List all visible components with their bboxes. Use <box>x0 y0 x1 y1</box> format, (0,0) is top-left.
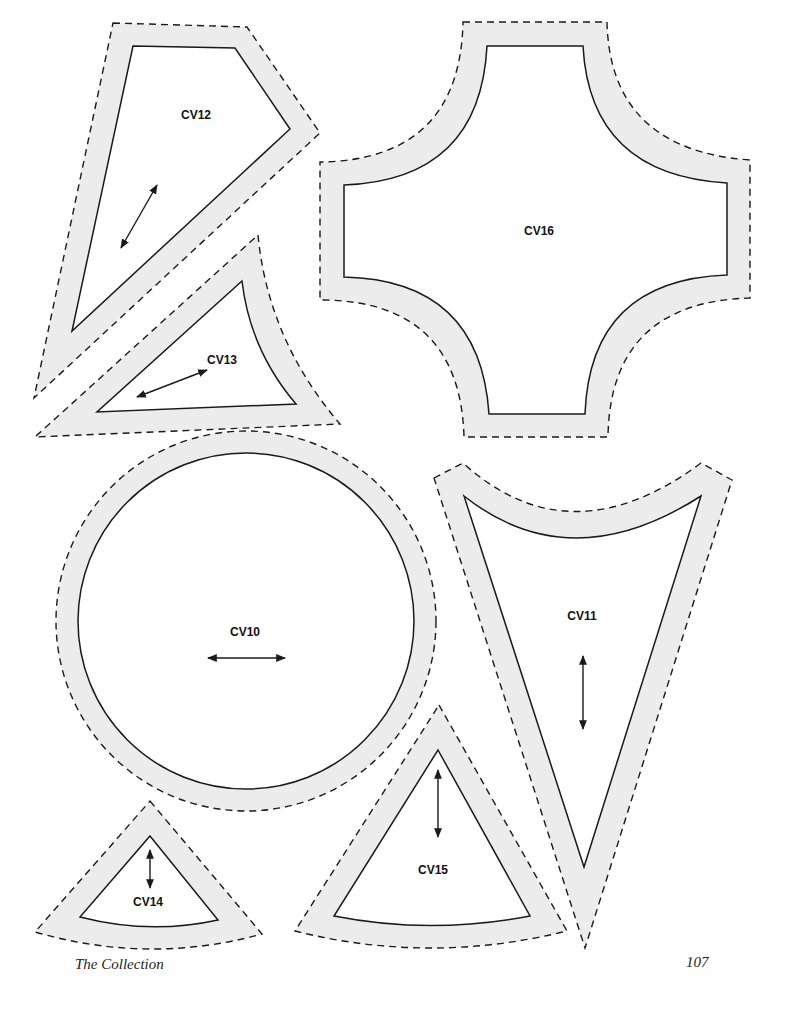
template-label-cv12: CV12 <box>181 108 211 122</box>
footer-book-title: The Collection <box>75 956 164 973</box>
template-label-cv13: CV13 <box>207 353 237 367</box>
template-label-cv16: CV16 <box>524 224 554 238</box>
template-artwork <box>0 0 792 1018</box>
pattern-page: CV12 CV13 CV16 CV10 CV11 CV14 CV15 The C… <box>0 0 792 1018</box>
template-label-cv15: CV15 <box>418 863 448 877</box>
template-label-cv10: CV10 <box>230 625 260 639</box>
template-label-cv14: CV14 <box>133 895 163 909</box>
template-label-cv11: CV11 <box>567 609 596 623</box>
page-number: 107 <box>686 954 709 971</box>
template-cv10 <box>56 431 436 811</box>
template-cv14 <box>35 801 262 949</box>
